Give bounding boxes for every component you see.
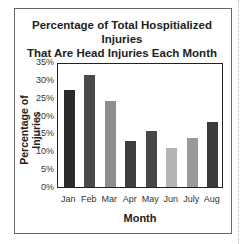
chart-title: Percentage of Total Hospitialized Injuri… [14, 18, 230, 60]
y-tick-label: 30% [28, 75, 54, 85]
bar-july [187, 138, 198, 187]
bar-mar [105, 101, 116, 187]
y-tick-label: 10% [28, 146, 54, 156]
chart-title-line1: Percentage of Total Hospitialized Injuri… [14, 18, 230, 46]
x-tick-label: Aug [198, 194, 226, 204]
y-tick-label: 15% [28, 128, 54, 138]
bar-feb [84, 75, 95, 187]
bar-jan [64, 90, 75, 187]
bar-aug [207, 122, 218, 187]
plot-area [57, 63, 223, 188]
y-tick-label: 20% [28, 111, 54, 121]
y-tick-label: 35% [28, 57, 54, 67]
y-tick-label: 5% [28, 164, 54, 174]
bar-may [146, 131, 157, 187]
bar-jun [166, 148, 177, 187]
x-axis-label: Month [57, 212, 223, 224]
y-tick-label: 25% [28, 93, 54, 103]
bar-apr [125, 141, 136, 187]
page-edge-dots [238, 0, 241, 244]
y-tick-label: 0% [28, 182, 54, 192]
